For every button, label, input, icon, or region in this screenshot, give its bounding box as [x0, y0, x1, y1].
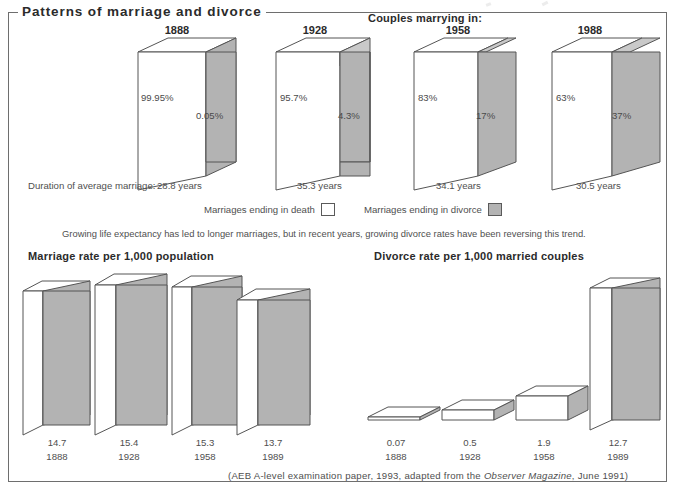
duration-value-1988: 30.5 years [576, 180, 621, 191]
chart-page: Patterns of marriage and divorce Couples… [0, 0, 677, 491]
scan-artifact [486, 2, 492, 7]
top-bar-year-1988: 1988 [530, 24, 650, 36]
marriage-value-1888: 14.7 [22, 437, 92, 448]
narrative-text: Growing life expectancy has led to longe… [62, 228, 586, 239]
bar-marriage-1958 [172, 276, 242, 435]
source-caption: (AEB A-level examination paper, 1993, ad… [228, 470, 628, 481]
caption-prefix: (AEB A-level examination paper, 1993, ad… [228, 470, 484, 481]
marriage-rate-title: Marriage rate per 1,000 population [28, 250, 214, 262]
legend-item-death: Marriages ending in death [204, 203, 335, 216]
top-bar-label-divorce-1988: 37% [612, 110, 631, 121]
marriage-year-1958: 1958 [170, 451, 240, 462]
top-bar-label-death-1928: 95.7% [280, 92, 307, 103]
marriage-year-1888: 1888 [22, 451, 92, 462]
page-title: Patterns of marriage and divorce [18, 4, 266, 19]
bar-divorce-1888 [368, 407, 440, 420]
top-panel-heading: Couples marrying in: [368, 12, 482, 24]
legend: Marriages ending in death Marriages endi… [204, 203, 502, 216]
marriage-year-1928: 1928 [94, 451, 164, 462]
top-bar-3d-1958 [404, 36, 516, 186]
marriage-rate-bars [22, 278, 322, 436]
divorce-value-1928: 0.5 [436, 437, 504, 448]
divorce-year-1989: 1989 [584, 451, 652, 462]
duration-label: Duration of average marriage: [28, 180, 155, 191]
divorce-year-1888: 1888 [362, 451, 430, 462]
duration-value-1958: 34.1 years [436, 180, 481, 191]
top-bar-3d-1988 [542, 36, 660, 186]
duration-value-1888: 28.8 years [157, 180, 202, 191]
caption-source-title: Observer Magazine [484, 470, 572, 481]
caption-suffix: , June 1991) [572, 470, 628, 481]
marriage-value-1989: 13.7 [238, 437, 308, 448]
top-bar-label-divorce-1958: 17% [476, 110, 495, 121]
legend-item-divorce: Marriages ending in divorce [364, 203, 502, 216]
marriage-value-1928: 15.4 [94, 437, 164, 448]
marriage-year-1989: 1989 [238, 451, 308, 462]
divorce-value-1888: 0.07 [362, 437, 430, 448]
bar-marriage-1989 [237, 289, 310, 435]
top-bar-label-divorce-1888: 0.05% [196, 110, 223, 121]
scan-artifact [542, 1, 549, 6]
top-bar-label-death-1988: 63% [556, 92, 575, 103]
top-bar-label-death-1888: 99.95% [141, 92, 174, 103]
divorce-value-1958: 1.9 [510, 437, 578, 448]
duration-value-1928: 35.3 years [297, 180, 342, 191]
top-bar-year-1958: 1958 [398, 24, 518, 36]
legend-swatch-divorce-icon [488, 203, 502, 216]
divorce-rate-title: Divorce rate per 1,000 married couples [374, 250, 584, 262]
divorce-year-1928: 1928 [436, 451, 504, 462]
divorce-year-1958: 1958 [510, 451, 578, 462]
marriage-value-1958: 15.3 [170, 437, 240, 448]
bar-divorce-1989 [590, 278, 660, 430]
bar-divorce-1958 [516, 386, 588, 420]
bar-marriage-1928 [95, 274, 167, 435]
bar-divorce-1928 [442, 400, 514, 420]
bar-marriage-1888 [23, 281, 90, 435]
legend-swatch-death-icon [321, 203, 335, 216]
divorce-value-1989: 12.7 [584, 437, 652, 448]
top-bar-label-divorce-1928: 4.3% [338, 110, 360, 121]
divorce-rate-bars [360, 268, 660, 436]
top-bar-year-1888: 1888 [117, 24, 237, 36]
top-bar-label-death-1958: 83% [418, 92, 437, 103]
legend-label-divorce: Marriages ending in divorce [364, 204, 482, 215]
top-bar-year-1928: 1928 [255, 24, 375, 36]
legend-label-death: Marriages ending in death [204, 204, 315, 215]
